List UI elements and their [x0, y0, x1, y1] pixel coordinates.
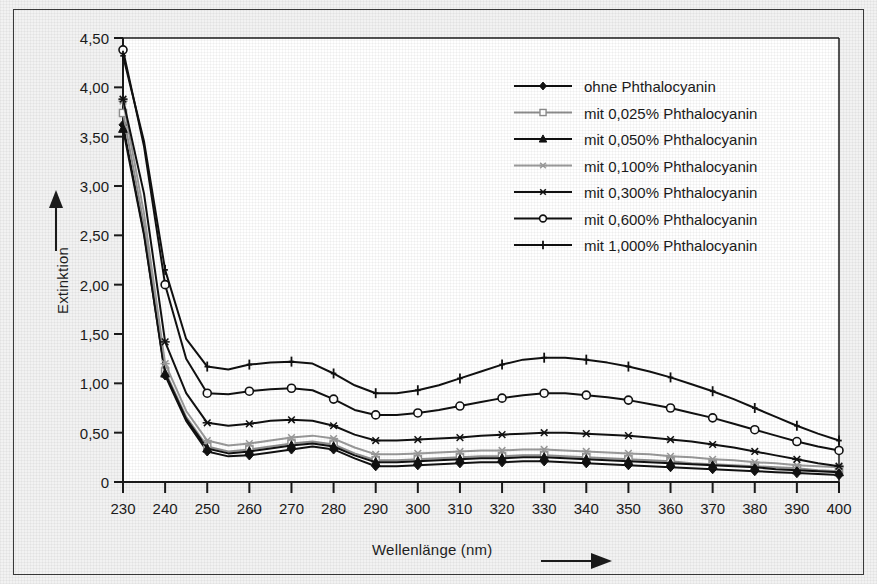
x-tick-label: 340 — [574, 500, 599, 517]
x-tick-label: 390 — [784, 500, 809, 517]
x-tick-label: 330 — [532, 500, 557, 517]
figure-container: 2302402502602702802903003103203303403503… — [0, 0, 877, 584]
x-tick-label: 270 — [279, 500, 304, 517]
x-tick-label: 360 — [658, 500, 683, 517]
x-tick-label: 230 — [110, 500, 135, 517]
y-tick-label: 0,50 — [80, 425, 109, 442]
legend-label: mit 0,050% Phthalocyanin — [584, 131, 757, 148]
x-tick-label: 320 — [490, 500, 515, 517]
x-tick-label: 240 — [153, 500, 178, 517]
x-tick-label: 250 — [195, 500, 220, 517]
x-tick-label: 310 — [447, 500, 472, 517]
x-tick-label: 260 — [237, 500, 262, 517]
y-tick-label: 0 — [101, 474, 109, 491]
chart-svg: 2302402502602702802903003103203303403503… — [14, 10, 865, 576]
right-arrow-icon — [541, 553, 613, 569]
legend-label: mit 0,600% Phthalocyanin — [584, 211, 757, 228]
y-tick-label: 3,00 — [80, 178, 109, 195]
up-arrow-icon — [48, 190, 64, 252]
y-tick-label: 3,50 — [80, 129, 109, 146]
x-tick-labels: 2302402502602702802903003103203303403503… — [110, 500, 851, 517]
legend-label: mit 0,100% Phthalocyanin — [584, 158, 757, 175]
y-tick-label: 2,00 — [80, 277, 109, 294]
x-tick-label: 370 — [700, 500, 725, 517]
legend-label: ohne Phthalocyanin — [584, 78, 716, 95]
y-tick-label: 1,00 — [80, 375, 109, 392]
x-tick-label: 380 — [742, 500, 767, 517]
y-tick-label: 4,00 — [80, 79, 109, 96]
y-tick-label: 2,50 — [80, 227, 109, 244]
legend-label: mit 0,025% Phthalocyanin — [584, 105, 757, 122]
x-tick-label: 280 — [321, 500, 346, 517]
legend-label: mit 0,300% Phthalocyanin — [584, 184, 757, 201]
x-axis-title: Wellenlänge (nm) — [372, 541, 492, 558]
chart-frame: 2302402502602702802903003103203303403503… — [13, 9, 864, 575]
x-tick-label: 300 — [405, 500, 430, 517]
y-tick-label: 1,50 — [80, 326, 109, 343]
x-tick-label: 400 — [826, 500, 851, 517]
legend-label: mit 1,000% Phthalocyanin — [584, 237, 757, 254]
y-tick-labels: 00,501,001,502,002,503,003,504,004,50 — [80, 30, 109, 491]
y-tick-label: 4,50 — [80, 30, 109, 47]
x-tick-label: 350 — [616, 500, 641, 517]
x-tick-label: 290 — [363, 500, 388, 517]
